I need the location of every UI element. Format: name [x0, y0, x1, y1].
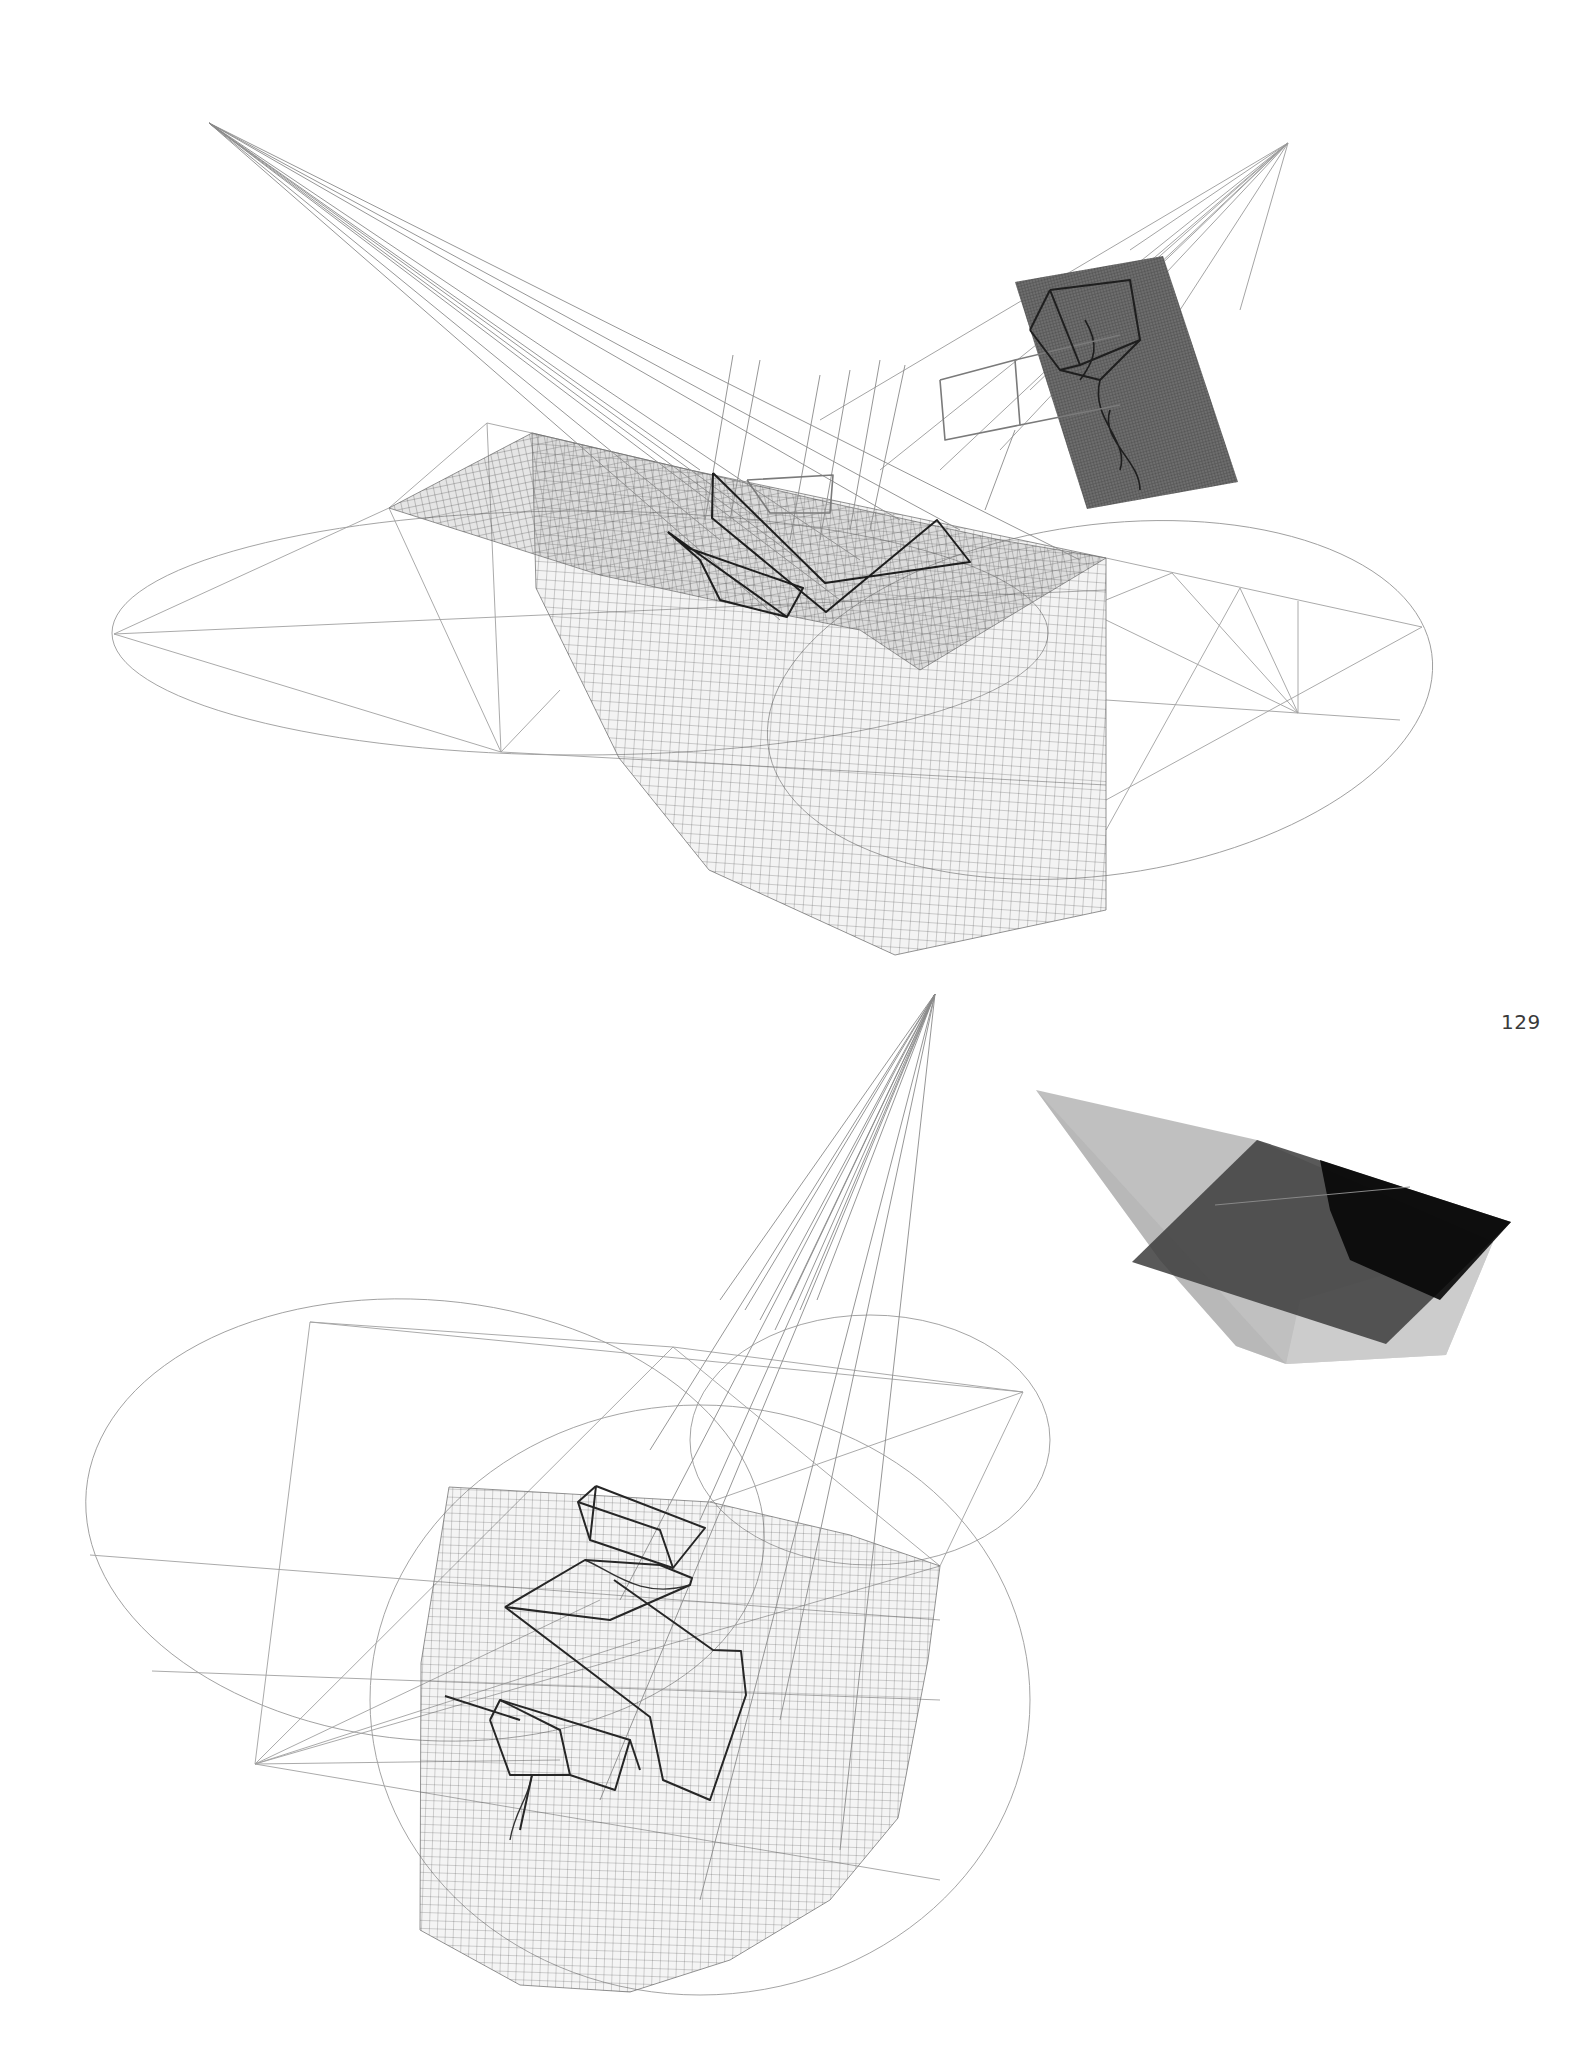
- construction-line: [1172, 573, 1298, 713]
- vertical-line: [870, 365, 905, 530]
- page-number: 129: [1501, 1010, 1541, 1034]
- mesh-surface-grid: [532, 433, 1106, 955]
- shaded-render: [1036, 1090, 1511, 1364]
- construction-line: [1106, 558, 1422, 627]
- construction-line: [673, 1347, 1023, 1392]
- projection-ray: [1130, 143, 1288, 250]
- construction-line: [114, 508, 389, 634]
- projection-ray: [817, 994, 935, 1300]
- projection-ray: [1180, 143, 1288, 310]
- construction-line: [940, 1392, 1023, 1566]
- projection-ray: [745, 994, 935, 1310]
- projection-ray: [800, 994, 935, 1310]
- construction-line: [501, 690, 560, 752]
- vertical-line: [985, 430, 1015, 510]
- construction-line: [1106, 588, 1240, 830]
- construction-line: [255, 1322, 310, 1764]
- projection-ray: [700, 994, 935, 1520]
- construction-line: [310, 1322, 673, 1347]
- construction-line: [1240, 588, 1298, 713]
- construction-line: [1106, 620, 1298, 713]
- construction-line: [1298, 713, 1400, 720]
- construction-line: [1106, 573, 1172, 600]
- projection-ray: [209, 123, 700, 470]
- architectural-drawings: [0, 0, 1584, 2061]
- projection-ray: [760, 994, 935, 1320]
- wireframe-light: [940, 360, 1020, 440]
- projection-ray: [620, 994, 935, 1600]
- projection-ray: [790, 994, 935, 1300]
- construction-line: [487, 423, 532, 433]
- construction-line: [1106, 627, 1422, 800]
- top-wireframe-drawing: [112, 123, 1456, 955]
- bottom-wireframe-drawing: [67, 994, 1050, 1995]
- construction-line: [710, 1392, 1023, 1502]
- construction-line: [389, 508, 501, 752]
- book-page: 129: [0, 0, 1584, 2061]
- projection-ray: [209, 123, 780, 620]
- construction-line: [310, 1322, 1023, 1392]
